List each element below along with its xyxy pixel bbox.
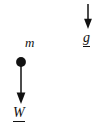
weight-vector-arrowhead <box>17 93 26 105</box>
mass-label: m <box>25 36 34 49</box>
gravity-vector-arrowhead <box>84 19 92 29</box>
weight-vector-label: W <box>13 106 25 122</box>
free-body-diagram: m W g <box>0 0 104 138</box>
gravity-vector-label: g <box>83 31 90 47</box>
point-mass-circle <box>16 57 26 67</box>
